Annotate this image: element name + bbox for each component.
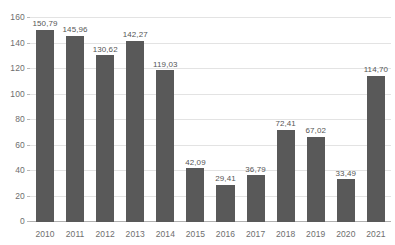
bar-slot: 142,27 (120, 18, 150, 222)
bar-slot: 36,79 (241, 18, 271, 222)
bar-chart: 020406080100120140160 150,79145,96130,62… (0, 0, 395, 245)
bar-value-label: 72,41 (275, 119, 296, 128)
bar: 145,96 (66, 36, 84, 222)
bar-value-label: 114,70 (364, 65, 388, 74)
bar: 142,27 (126, 41, 144, 222)
x-axis-tick-label: 2012 (90, 227, 120, 241)
bar-slot: 114,70 (361, 18, 391, 222)
bar-slot: 72,41 (271, 18, 301, 222)
plot-area: 020406080100120140160 150,79145,96130,62… (30, 18, 391, 222)
x-axis-tick-label: 2016 (210, 227, 240, 241)
bar-value-label: 29,41 (215, 174, 236, 183)
y-axis-tick-label: 60 (15, 140, 25, 150)
x-axis-tick-label: 2015 (180, 227, 210, 241)
bar-slot: 33,49 (331, 18, 361, 222)
bar-slot: 130,62 (90, 18, 120, 222)
bar: 42,09 (186, 168, 204, 222)
bar: 114,70 (367, 76, 385, 222)
bar: 72,41 (277, 130, 295, 222)
x-axis-tick-label: 2017 (241, 227, 271, 241)
bar-slot: 119,03 (150, 18, 180, 222)
x-axis-tick-label: 2014 (150, 227, 180, 241)
bar-value-label: 145,96 (63, 25, 88, 34)
bar-value-label: 67,02 (305, 126, 326, 135)
x-axis-tick-label: 2019 (301, 227, 331, 241)
bar-value-label: 150,79 (32, 19, 57, 28)
bar-value-label: 33,49 (336, 169, 357, 178)
y-axis-tick-label: 40 (15, 165, 25, 175)
bar-value-label: 119,03 (153, 60, 177, 69)
bar: 67,02 (307, 137, 325, 222)
bar-slot: 29,41 (210, 18, 240, 222)
y-axis-tick-label: 100 (10, 89, 25, 99)
x-axis-tick-label: 2010 (30, 227, 60, 241)
bar-slot: 145,96 (60, 18, 90, 222)
bar-slot: 42,09 (180, 18, 210, 222)
x-axis-tick-label: 2021 (361, 227, 391, 241)
bar: 130,62 (96, 55, 114, 222)
bar-slot: 67,02 (301, 18, 331, 222)
y-axis-tick-label: 120 (10, 63, 25, 73)
bar: 36,79 (247, 175, 265, 222)
x-axis-tick-labels: 2010201120122013201420152016201720182019… (30, 227, 391, 241)
bar-series: 150,79145,96130,62142,27119,0342,0929,41… (30, 18, 391, 222)
x-axis-tick-label: 2013 (120, 227, 150, 241)
x-axis-tick-label: 2011 (60, 227, 90, 241)
y-axis-tick-label: 140 (10, 38, 25, 48)
y-axis-tick-label: 80 (15, 114, 25, 124)
bar: 119,03 (156, 70, 174, 222)
bar: 33,49 (337, 179, 355, 222)
bar: 150,79 (36, 30, 54, 222)
bar: 29,41 (216, 185, 234, 222)
bar-value-label: 36,79 (245, 165, 266, 174)
x-axis-tick-label: 2018 (271, 227, 301, 241)
y-axis-tick-label: 0 (20, 216, 25, 226)
y-axis-tick-label: 160 (10, 12, 25, 22)
x-axis-tick-label: 2020 (331, 227, 361, 241)
bar-slot: 150,79 (30, 18, 60, 222)
bar-value-label: 130,62 (93, 45, 118, 54)
y-axis-tick-label: 20 (15, 191, 25, 201)
bar-value-label: 142,27 (123, 30, 148, 39)
bar-value-label: 42,09 (185, 158, 206, 167)
